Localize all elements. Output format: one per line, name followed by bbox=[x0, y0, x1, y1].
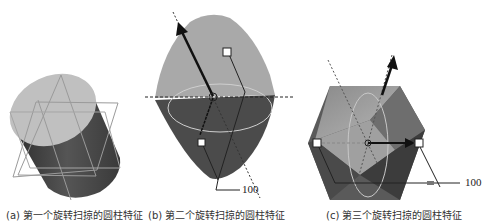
double-cone-model-graphic bbox=[140, 0, 310, 210]
panel-c-faceted-solid: 100 bbox=[300, 0, 484, 210]
panel-a-cylinder bbox=[0, 0, 150, 210]
caption-b: (b) 第二个旋转扫掠的圆柱特征 bbox=[148, 211, 285, 221]
dimension-label-c: 100 bbox=[465, 176, 482, 188]
panel-b-double-cone: 100 bbox=[140, 0, 310, 210]
caption-c: (c) 第三个旋转扫掠的圆柱特征 bbox=[326, 211, 462, 221]
cylinder-model-graphic bbox=[0, 0, 150, 210]
caption-a: (a) 第一个旋转扫掠的圆柱特征 bbox=[6, 211, 143, 221]
faceted-solid-model-graphic bbox=[300, 0, 484, 210]
dimension-label-b: 100 bbox=[242, 183, 259, 195]
